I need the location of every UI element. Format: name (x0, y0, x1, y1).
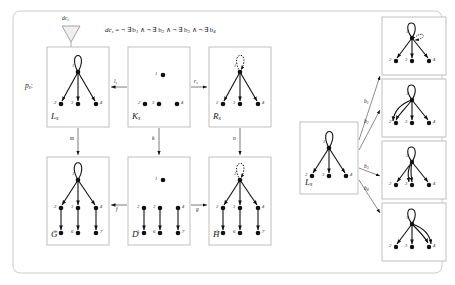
branch-arrow-b3 (359, 168, 380, 176)
node-label-Ls-2: 2 (54, 101, 56, 106)
node-label-b4-1: 1 (406, 216, 408, 221)
node-label-Ks-2: 2 (138, 101, 140, 106)
node-label-G-3: 3 (71, 205, 73, 210)
node-label-H-4: 4 (262, 205, 264, 210)
arrow-label-k: k (152, 136, 154, 142)
node-label-H-2: 2 (216, 205, 218, 210)
figure-root: dcs dcs = ¬ ∃ b1 ∧ ¬ ∃ b2 ∧ ¬ ∃ b3 ∧ ¬ ∃… (0, 0, 455, 285)
node-label-Ls-1: 1 (72, 64, 74, 69)
dc-marker-triangle (62, 26, 80, 42)
arrow-label-f: f (116, 207, 118, 213)
box-label-Ls: Ls (51, 112, 58, 121)
node-label-G-7: 7 (100, 230, 102, 235)
node-label-G-4: 4 (100, 205, 102, 210)
node-label-b4-3: 3 (405, 244, 407, 249)
dc-marker-label: dcs (62, 16, 69, 23)
node-label-Ks-1: 1 (155, 72, 157, 77)
box-label-Ls2: Ls (305, 178, 312, 187)
node-label-Ls2-3: 3 (322, 173, 324, 178)
branch-label-b1: b1 (364, 99, 369, 106)
node-label-D-1: 1 (155, 177, 157, 182)
node-label-D-7: 7 (182, 230, 184, 235)
node-label-b3-2: 2 (389, 182, 391, 187)
branch-arrow-b4 (359, 180, 380, 213)
node-label-D-2: 2 (137, 205, 139, 210)
node-label-Ls2-2: 2 (305, 173, 307, 178)
node-label-H-3: 3 (233, 205, 235, 210)
node-label-Ls-3: 3 (71, 101, 73, 106)
rule-name-label: ps: (25, 82, 33, 90)
node-label-G-5: 5 (54, 230, 56, 235)
branch-label-b2: b2 (364, 119, 369, 126)
node-label-D-4: 4 (182, 205, 184, 210)
node-label-H-5: 5 (216, 230, 218, 235)
node-label-H-7: 7 (262, 230, 264, 235)
diagram-canvas (0, 0, 455, 285)
node-label-b3-1: 1 (406, 154, 408, 159)
node-label-b3-4: 4 (433, 182, 435, 187)
node-label-D-6: 6 (153, 230, 155, 235)
node-label-Ks-4: 4 (181, 101, 183, 106)
box-b4 (382, 203, 446, 261)
node-label-Ls-4: 4 (100, 101, 102, 106)
arrow-label-g: g (196, 207, 199, 213)
box-b1 (382, 17, 446, 75)
node-label-H-1: 1 (234, 172, 236, 177)
node-label-D-5: 5 (137, 230, 139, 235)
node-label-b3-3: 3 (405, 182, 407, 187)
node-label-b2-3: 3 (405, 120, 407, 125)
node-label-b4-2: 2 (389, 244, 391, 249)
dc-formula: dcs = ¬ ∃ b1 ∧ ¬ ∃ b2 ∧ ¬ ∃ b3 ∧ ¬ ∃ b4 (105, 26, 216, 34)
node-label-b2-1: 1 (406, 92, 408, 97)
arrow-label-n: n (233, 136, 236, 142)
node-label-b1-2: 2 (389, 58, 391, 63)
node-label-Rs-1: 1 (234, 64, 236, 69)
node-label-G-2: 2 (54, 205, 56, 210)
node-label-Ls2-4: 4 (350, 173, 352, 178)
branch-label-b4: b4 (364, 186, 369, 193)
node-label-b1-3: 3 (405, 58, 407, 63)
node-label-b4-4: 4 (433, 244, 435, 249)
node-label-b2-2: 2 (389, 120, 391, 125)
node-label-Rs-2: 2 (216, 101, 218, 106)
arrow-label-r-s: rs (194, 79, 198, 86)
arrow-label-l-s: ls (114, 79, 117, 86)
node-label-Ks-3: 3 (152, 101, 154, 106)
box-label-Ks: Ks (132, 112, 140, 121)
arrow-label-m: m (70, 136, 74, 142)
branch-label-b3: b3 (364, 164, 369, 171)
box-label-Rs: Rs (213, 112, 221, 121)
node-label-Rs-4: 4 (262, 101, 264, 106)
node-label-Rs-3: 3 (233, 101, 235, 106)
node-label-D-3: 3 (153, 205, 155, 210)
node-label-Ls2-1: 1 (323, 140, 325, 145)
node-label-G-6: 6 (71, 230, 73, 235)
node-label-b2-4: 4 (433, 120, 435, 125)
node-label-b1-4: 4 (433, 58, 435, 63)
node-label-b1-1: 1 (406, 30, 408, 35)
box-b3 (382, 141, 446, 199)
box-b2 (382, 79, 446, 137)
node-label-G-1: 1 (72, 172, 74, 177)
node-label-H-6: 6 (233, 230, 235, 235)
